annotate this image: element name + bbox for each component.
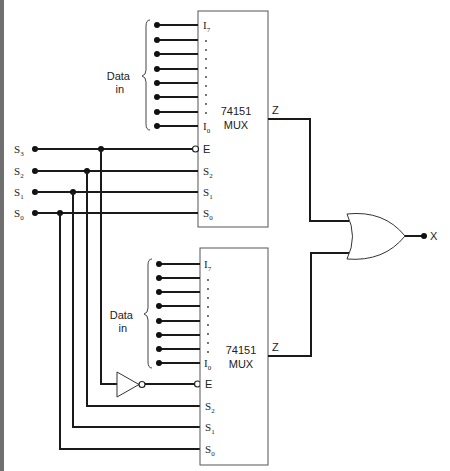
chip-number: 74151 <box>226 344 257 356</box>
brace-icon <box>144 259 152 368</box>
select-inputs: S3 S2 S1 S0 <box>14 143 200 449</box>
output-z: Z <box>272 104 279 116</box>
input-s0-label: S0 <box>14 207 24 222</box>
pin-enable: E <box>203 143 210 155</box>
mux-top: Data in I7 I0 74151 MUX E S2 S1 S0 Z <box>107 11 279 227</box>
enable-bubble-top <box>193 146 199 152</box>
chip-type: MUX <box>224 119 249 131</box>
mux-bottom: Data in I7 I0 74151 MUX E S2 S1 S0 Z <box>110 248 279 465</box>
data-in-label-line2: in <box>115 83 124 95</box>
inverter-gate <box>117 372 201 397</box>
input-s1-label: S1 <box>14 186 24 201</box>
input-s3-label: S3 <box>14 143 24 158</box>
pin-enable: E <box>205 378 212 390</box>
input-s2-label: S2 <box>14 165 24 180</box>
output-x: X <box>430 230 438 242</box>
chip-number: 74151 <box>221 105 252 117</box>
circuit-diagram: Data in I7 I0 74151 MUX E S2 S1 S0 Z S3 … <box>0 0 450 471</box>
mux-top-data-inputs <box>154 22 198 129</box>
brace-icon <box>142 20 150 130</box>
data-in-label-line1: Data <box>107 70 131 82</box>
data-in-label-line1: Data <box>110 309 134 321</box>
chip-type: MUX <box>229 358 254 370</box>
data-in-label-line2: in <box>118 322 127 334</box>
or-gate: X <box>268 119 438 356</box>
mux-bottom-data-inputs <box>156 261 200 366</box>
output-z: Z <box>272 341 279 353</box>
